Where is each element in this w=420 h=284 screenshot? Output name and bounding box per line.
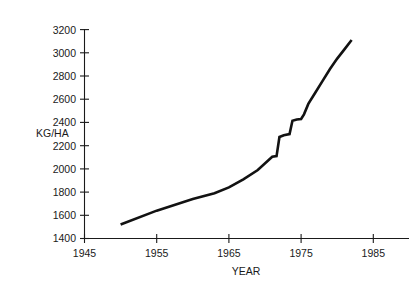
line-chart-svg: 1400 1600 1800 2000 2200 2400 2600 2800 … bbox=[0, 0, 420, 284]
x-axis-tick-labels: 1945 1955 1965 1975 1985 bbox=[73, 247, 385, 259]
y-tick-label: 1800 bbox=[53, 186, 77, 198]
chart-figure: 1400 1600 1800 2000 2200 2400 2600 2800 … bbox=[0, 0, 420, 284]
y-tick-label: 2800 bbox=[53, 70, 77, 82]
y-tick-label: 3200 bbox=[53, 24, 77, 36]
y-tick-label: 3000 bbox=[53, 47, 77, 59]
x-tick-label: 1985 bbox=[362, 247, 386, 259]
y-axis-title: KG/HA bbox=[36, 127, 69, 139]
y-tick-label: 2600 bbox=[53, 93, 77, 105]
y-tick-label: 2200 bbox=[53, 140, 77, 152]
y-tick-label: 2000 bbox=[53, 163, 77, 175]
x-tick-label: 1975 bbox=[289, 247, 313, 259]
x-tick-label: 1965 bbox=[217, 247, 241, 259]
x-axis-title: YEAR bbox=[232, 265, 261, 277]
x-tick-label: 1945 bbox=[73, 247, 97, 259]
y-tick-label: 1600 bbox=[53, 209, 77, 221]
data-series-line bbox=[121, 40, 352, 225]
x-tick-label: 1955 bbox=[145, 247, 169, 259]
y-tick-label: 1400 bbox=[53, 232, 77, 244]
